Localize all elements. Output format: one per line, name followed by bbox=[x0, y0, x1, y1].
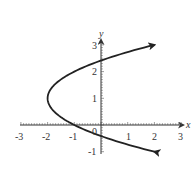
y-tick-label: -1 bbox=[88, 147, 96, 157]
x-tick-label: -1 bbox=[69, 132, 77, 142]
x-tick-label: 3 bbox=[178, 132, 183, 142]
origin-label: 0 bbox=[92, 127, 97, 137]
y-tick-label: 2 bbox=[92, 67, 97, 77]
y-axis-label: y bbox=[99, 29, 103, 39]
y-tick-label: 3 bbox=[92, 41, 97, 51]
x-tick-label: -2 bbox=[42, 132, 50, 142]
y-tick-label: 1 bbox=[92, 94, 97, 104]
x-axis-label: x bbox=[186, 120, 190, 130]
x-tick-label: -3 bbox=[15, 132, 23, 142]
x-tick-label: 1 bbox=[126, 132, 131, 142]
x-tick-label: 2 bbox=[152, 132, 157, 142]
